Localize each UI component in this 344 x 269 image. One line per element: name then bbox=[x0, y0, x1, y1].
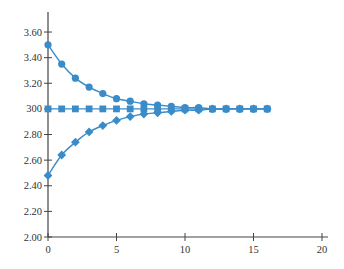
axes: 2.002.202.402.602.803003.203.403.6005101… bbox=[24, 12, 328, 255]
square-marker bbox=[99, 106, 106, 113]
square-marker bbox=[127, 106, 134, 113]
y-tick-label: 3.60 bbox=[24, 27, 42, 38]
x-tick-label: 10 bbox=[180, 244, 191, 255]
y-tick-label: 2.80 bbox=[24, 129, 42, 140]
y-tick-label: 3.40 bbox=[24, 52, 42, 63]
x-tick-label: 0 bbox=[45, 244, 50, 255]
circle-marker bbox=[72, 75, 79, 82]
square-marker bbox=[86, 106, 93, 113]
circle-marker bbox=[99, 90, 106, 97]
series-layer bbox=[44, 41, 272, 180]
circle-marker bbox=[127, 98, 134, 105]
series-diamond bbox=[44, 105, 272, 180]
circle-marker bbox=[86, 84, 93, 91]
square-marker bbox=[45, 106, 52, 113]
diamond-marker bbox=[112, 116, 121, 125]
circle-marker bbox=[113, 95, 120, 102]
series-line bbox=[48, 45, 267, 109]
y-tick-label: 300 bbox=[26, 103, 42, 114]
y-tick-label: 2.00 bbox=[24, 232, 42, 243]
x-tick-label: 15 bbox=[248, 244, 259, 255]
y-tick-label: 2.40 bbox=[24, 180, 42, 191]
square-marker bbox=[113, 106, 120, 113]
square-marker bbox=[72, 106, 79, 113]
square-marker bbox=[58, 106, 65, 113]
series-line bbox=[48, 109, 267, 176]
series-circle bbox=[44, 41, 270, 112]
diamond-marker bbox=[126, 112, 135, 121]
diamond-marker bbox=[98, 121, 107, 130]
x-tick-label: 20 bbox=[317, 244, 328, 255]
x-tick-label: 5 bbox=[114, 244, 119, 255]
diamond-marker bbox=[44, 171, 53, 180]
y-tick-label: 2.20 bbox=[24, 206, 42, 217]
circle-marker bbox=[44, 41, 51, 48]
line-chart: 2.002.202.402.602.803003.203.403.6005101… bbox=[0, 0, 344, 269]
y-tick-label: 3.20 bbox=[24, 78, 42, 89]
y-tick-label: 2.60 bbox=[24, 155, 42, 166]
circle-marker bbox=[58, 60, 65, 67]
diamond-marker bbox=[85, 128, 94, 137]
